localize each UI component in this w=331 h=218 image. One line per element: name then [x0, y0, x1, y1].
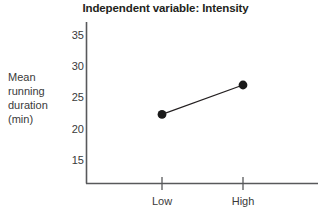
chart-plot-area: [0, 0, 331, 218]
chart-figure: Independent variable: Intensity Mean run…: [0, 0, 331, 218]
data-point-marker-low: [158, 110, 167, 119]
data-line-segment: [162, 85, 243, 114]
data-point-marker-high: [239, 81, 248, 90]
data-series-line: [158, 81, 248, 119]
